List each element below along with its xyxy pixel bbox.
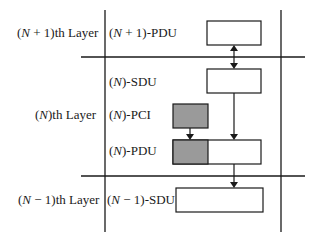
label-var: N (22, 192, 31, 207)
arrow-down-icon (230, 63, 238, 69)
label-var: N (113, 143, 122, 158)
layer-label-n-minus-1: (N − 1)th Layer (18, 193, 99, 207)
unit-label-n-minus-1-sdu: (N − 1)-SDU (107, 193, 175, 207)
n-pdu-header-segment (173, 140, 208, 164)
n-plus-1-pdu-box (207, 21, 261, 45)
arrow-down-icon (186, 134, 194, 140)
arrow-down-icon (230, 134, 238, 140)
arrow-up-icon (230, 45, 238, 51)
label-text: − 1)th Layer (31, 192, 99, 207)
label-text: )-PCI (122, 107, 151, 122)
layer-label-n-plus-1: (N + 1)th Layer (17, 26, 98, 40)
unit-label-n-sdu: (N)-SDU (109, 75, 157, 89)
unit-label-n-pci: (N)-PCI (109, 108, 151, 122)
label-var: N (113, 25, 122, 40)
label-text: + 1)th Layer (30, 25, 98, 40)
n-minus-1-sdu-box (176, 188, 263, 212)
label-text: − 1)-SDU (120, 192, 175, 207)
label-text: )-SDU (122, 74, 157, 89)
label-text: )-PDU (122, 143, 157, 158)
unit-label-n-plus-1-pdu: (N + 1)-PDU (109, 26, 177, 40)
arrow-down-icon (230, 182, 238, 188)
label-text: + 1)-PDU (122, 25, 177, 40)
label-var: N (39, 107, 48, 122)
layer-label-n: (N)th Layer (35, 108, 96, 122)
unit-label-n-pdu: (N)-PDU (109, 144, 157, 158)
label-var: N (113, 107, 122, 122)
n-pci-box (173, 104, 208, 128)
n-sdu-box (207, 69, 261, 93)
label-text: )th Layer (48, 107, 96, 122)
label-var: N (111, 192, 120, 207)
label-var: N (21, 25, 30, 40)
label-var: N (113, 74, 122, 89)
